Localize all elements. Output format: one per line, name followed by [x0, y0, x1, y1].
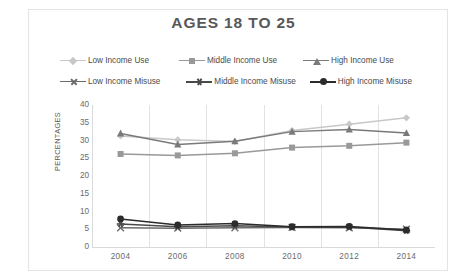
plot-wrapper: PERCENTAGES 0510152025303540 20042006200… — [28, 9, 448, 271]
y-axis-title: PERCENTAGES — [53, 97, 62, 187]
x-axis-line — [92, 247, 435, 248]
y-tick-label: 5 — [63, 224, 89, 233]
data-point-marker — [118, 151, 124, 157]
data-point-marker — [289, 145, 295, 151]
data-point-marker — [403, 140, 409, 146]
y-tick-label: 15 — [63, 189, 89, 198]
y-tick-label: 25 — [63, 153, 89, 162]
plot-area: 0510152025303540 20042006200820102012201… — [92, 105, 435, 247]
y-tick-label: 10 — [63, 207, 89, 216]
x-tick-label: 2008 — [215, 252, 255, 261]
data-point-marker — [232, 220, 239, 227]
data-point-marker — [174, 222, 181, 229]
data-point-marker — [117, 130, 124, 137]
data-point-marker — [346, 223, 353, 230]
data-point-marker — [117, 216, 124, 223]
series-line — [121, 129, 407, 144]
x-tick-label: 2014 — [386, 252, 426, 261]
data-point-marker — [403, 114, 410, 121]
series-line — [121, 143, 407, 156]
data-point-marker — [403, 227, 410, 234]
data-point-marker — [289, 223, 296, 230]
y-tick-label: 30 — [63, 136, 89, 145]
data-point-marker — [232, 150, 238, 156]
series-plot — [92, 105, 435, 247]
data-point-marker — [346, 143, 352, 149]
data-point-marker — [175, 152, 181, 158]
x-tick-label: 2010 — [272, 252, 312, 261]
y-tick-label: 35 — [63, 118, 89, 127]
y-tick-label: 20 — [63, 171, 89, 180]
series-middle-income-use — [118, 140, 410, 159]
y-tick-label: 40 — [63, 100, 89, 109]
x-tick-label: 2006 — [158, 252, 198, 261]
y-tick-label: 0 — [63, 242, 89, 251]
series-high-income-misuse — [117, 216, 410, 234]
chart-card: AGES 18 TO 25 Low Income Use Middle Inco… — [0, 0, 467, 280]
x-tick-label: 2012 — [329, 252, 369, 261]
x-tick-label: 2004 — [101, 252, 141, 261]
